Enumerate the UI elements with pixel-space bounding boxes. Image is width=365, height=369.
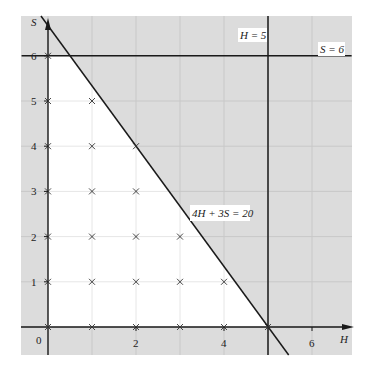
x-tick-label: 2	[133, 337, 139, 349]
y-tick-label: 6	[31, 50, 37, 62]
x-axis-label: H	[339, 333, 349, 345]
constraint-label-s: S = 6	[320, 43, 344, 55]
y-axis-label: S	[31, 16, 37, 28]
y-tick-label: 4	[31, 140, 37, 152]
y-tick-label: 3	[31, 185, 37, 197]
constraint-label-main: 4H + 3S = 20	[192, 207, 254, 219]
x-tick-label: 6	[309, 337, 315, 349]
y-tick-label: 5	[31, 95, 37, 107]
chart: 246123456 S H 0 4H + 3S = 20 H = 5 S = 6	[0, 0, 365, 369]
constraint-label-h: H = 5	[239, 29, 267, 41]
y-tick-label: 2	[31, 231, 37, 243]
y-tick-label: 1	[31, 276, 37, 288]
origin-label: 0	[36, 334, 42, 346]
x-tick-label: 4	[221, 337, 227, 349]
